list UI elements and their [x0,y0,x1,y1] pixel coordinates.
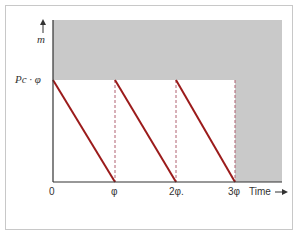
x-tick-2phi: 2φ. [169,186,184,197]
x-axis-label: Time [249,186,271,197]
x-arrow-icon [282,189,288,195]
y-peak-label: Pc · φ [15,73,41,85]
x-tick-0: 0 [49,186,55,197]
sawtooth-chart [0,0,301,240]
y-arrow-icon [40,19,46,25]
x-tick-3phi: 3φ [228,186,240,197]
x-tick-phi: φ [111,186,117,197]
y-axis-label: m [37,33,45,45]
